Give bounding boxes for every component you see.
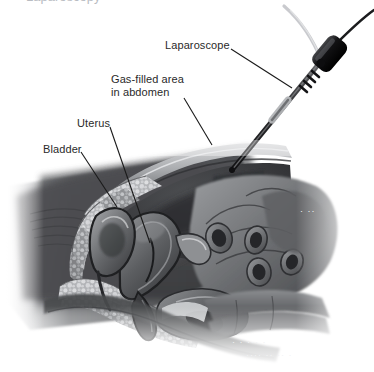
label-laparoscope: Laparoscope bbox=[165, 39, 230, 52]
laparoscopy-figure: Laparoscopy bbox=[0, 0, 374, 372]
leader-laparoscope bbox=[231, 49, 292, 88]
leader-gas-filled-area bbox=[184, 98, 212, 145]
label-bladder: Bladder bbox=[43, 143, 82, 156]
label-gas-filled-area-line2: in abdomen bbox=[111, 86, 184, 99]
bleed-through-fragment: · ·· bbox=[300, 206, 316, 216]
anatomical-illustration bbox=[0, 0, 374, 372]
bleed-through-fragment: ···· ·· ·· · bbox=[246, 350, 292, 360]
label-uterus: Uterus bbox=[77, 117, 110, 130]
label-gas-filled-area-line1: Gas-filled area bbox=[111, 73, 184, 86]
label-gas-filled-area: Gas-filled area in abdomen bbox=[111, 73, 184, 99]
bleed-through-fragment: · · ··· · bbox=[232, 337, 266, 347]
